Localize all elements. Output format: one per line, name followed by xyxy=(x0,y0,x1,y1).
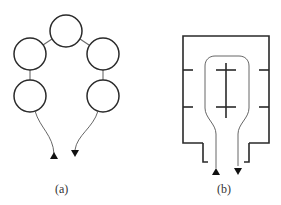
arrow-down-icon xyxy=(71,150,79,157)
link-top-right xyxy=(80,39,89,45)
bracket-left xyxy=(203,143,208,162)
link-left-top xyxy=(43,39,52,45)
figure: (a) (b) xyxy=(0,0,281,205)
caption-a: (a) xyxy=(55,182,68,196)
caption-b: (b) xyxy=(217,182,231,196)
node-left-lower xyxy=(14,80,46,112)
node-right-upper xyxy=(87,38,119,70)
bracket-right xyxy=(244,143,249,162)
arrow-up-icon xyxy=(212,168,220,175)
outlet-curve xyxy=(75,111,98,150)
node-right-lower xyxy=(87,80,119,112)
inlet-curve xyxy=(35,111,54,154)
panel-a: (a) xyxy=(14,15,119,196)
panel-b: (b) xyxy=(183,36,269,196)
arrow-up-icon xyxy=(50,152,58,159)
node-left-upper xyxy=(14,38,46,70)
arrow-down-icon xyxy=(234,168,242,175)
flow-tube xyxy=(205,56,249,168)
node-top xyxy=(50,15,82,47)
